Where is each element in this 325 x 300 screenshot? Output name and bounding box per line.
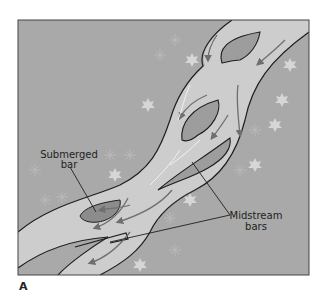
midstream-bars-label-line2: bars (245, 221, 267, 232)
braided-river-diagram: Submerged bar Midstream bars (0, 0, 325, 300)
midstream-bars-label-line1: Midstream (230, 210, 283, 221)
panel-label: A (19, 280, 28, 293)
submerged-bar-label-line2: bar (61, 159, 78, 170)
